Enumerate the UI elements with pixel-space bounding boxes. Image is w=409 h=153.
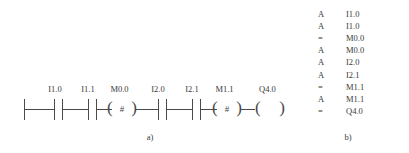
operand-label-m0-0: M0.0 xyxy=(97,84,142,95)
stl-operand: M0.0 xyxy=(346,32,364,44)
stl-operand: I1.0 xyxy=(346,8,359,20)
operand-label-q4-0: Q4.0 xyxy=(245,84,290,95)
statement-list-row: A I2.1 xyxy=(300,68,400,80)
statement-list-row: = Q4.0 xyxy=(300,105,400,117)
stl-operator: A xyxy=(300,93,346,105)
wire-segment xyxy=(136,109,158,110)
operand-label-m1-1: M1.1 xyxy=(202,84,247,95)
statement-list-row: A M1.1 xyxy=(300,93,400,105)
stl-operand: Q4.0 xyxy=(346,105,363,117)
ladder-diagram-figure: I1.0 I1.1 M0.0 ( # ) I2.0 xyxy=(0,0,300,153)
statement-list-row: = M1.1 xyxy=(300,81,400,93)
stl-operator: A xyxy=(300,69,346,81)
figure-caption-b: b) xyxy=(300,132,396,143)
coil-q4-0[interactable]: ( ) xyxy=(255,98,285,121)
stl-operator: A xyxy=(300,20,346,32)
stl-operand: M1.1 xyxy=(346,93,364,105)
coil-m0-0[interactable]: ( # ) xyxy=(107,98,137,121)
figure-caption-a: a) xyxy=(0,132,300,143)
statement-list-row: A I1.0 xyxy=(300,8,400,20)
operand-label-i1-0: I1.0 xyxy=(40,84,70,95)
contact-bar-left xyxy=(54,99,55,120)
stl-operand: M0.0 xyxy=(346,44,364,56)
ladder-rung: I1.0 I1.1 M0.0 ( # ) I2.0 xyxy=(24,84,282,118)
stl-operand: I1.0 xyxy=(346,20,359,32)
stl-operator: A xyxy=(300,56,346,68)
coil-m1-1[interactable]: ( # ) xyxy=(212,98,242,121)
stl-operand: M1.1 xyxy=(346,81,364,93)
contact-i2-1[interactable] xyxy=(192,99,201,120)
statement-list-row: A I2.0 xyxy=(300,56,400,68)
wire-segment xyxy=(241,109,255,110)
contact-bar-left xyxy=(158,99,159,120)
stl-operator: A xyxy=(300,8,346,20)
contact-i1-1[interactable] xyxy=(88,99,97,120)
coil-paren-right-icon: ) xyxy=(236,96,242,119)
stl-operator: = xyxy=(300,81,346,93)
contact-bar-left xyxy=(192,99,193,120)
coil-paren-right-icon: ) xyxy=(131,96,137,119)
statement-list-row: A I1.0 xyxy=(300,20,400,32)
statement-list-row: = M0.0 xyxy=(300,32,400,44)
coil-paren-left-icon: ( xyxy=(255,96,261,119)
contact-i1-0[interactable] xyxy=(54,99,63,120)
operand-label-i2-0: I2.0 xyxy=(143,84,173,95)
stl-operator: = xyxy=(300,32,346,44)
statement-list-figure: A I1.0 A I1.0 = M0.0 A M0.0 A I2.0 A I2.… xyxy=(300,8,400,117)
stl-operand: I2.0 xyxy=(346,56,359,68)
coil-paren-right-icon: ) xyxy=(279,96,285,119)
contact-bar-left xyxy=(88,99,89,120)
stl-operator: A xyxy=(300,44,346,56)
stl-operator: = xyxy=(300,105,346,117)
contact-i2-0[interactable] xyxy=(158,99,167,120)
wire-segment xyxy=(63,109,88,110)
statement-list-row: A M0.0 xyxy=(300,44,400,56)
stl-operand: I2.1 xyxy=(346,69,359,81)
wire-segment xyxy=(167,109,192,110)
wire-segment xyxy=(25,109,54,110)
